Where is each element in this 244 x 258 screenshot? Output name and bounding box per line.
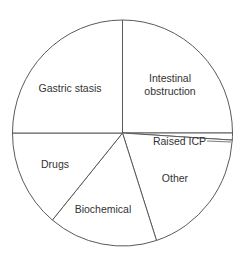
slice-label-raised-icp: Raised ICP xyxy=(153,135,206,147)
slice-label-drugs: Drugs xyxy=(41,158,69,170)
pie-chart: IntestinalobstructionRaised ICPOtherBioc… xyxy=(0,0,244,258)
slice-label-biochemical: Biochemical xyxy=(75,203,132,215)
pie-slice-gastric-stasis xyxy=(13,20,123,133)
slice-label-gastric-stasis: Gastric stasis xyxy=(38,82,101,94)
slice-label-other: Other xyxy=(162,172,189,184)
slice-label-intestinal-obstruction: Intestinalobstruction xyxy=(144,72,196,97)
